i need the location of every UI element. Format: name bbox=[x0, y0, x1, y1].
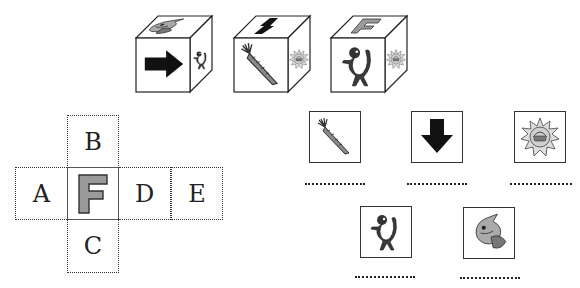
net-label-d: D bbox=[135, 180, 154, 208]
net-cell-c: C bbox=[67, 220, 119, 273]
fish-icon bbox=[464, 208, 514, 258]
net-cell-d: D bbox=[119, 167, 171, 220]
cube-1 bbox=[134, 14, 214, 110]
net-cell-e: E bbox=[171, 167, 223, 220]
answer-blank-fish[interactable] bbox=[460, 277, 520, 279]
cube-2 bbox=[232, 14, 312, 110]
cube-3 bbox=[329, 14, 409, 110]
answer-blank-sun[interactable] bbox=[510, 183, 572, 185]
net-cell-a: A bbox=[15, 167, 67, 220]
option-carrot bbox=[309, 111, 361, 163]
net-label-a: A bbox=[33, 180, 50, 208]
sun-icon bbox=[515, 112, 565, 162]
option-fish bbox=[463, 207, 515, 259]
net-cell-f bbox=[67, 167, 119, 220]
answer-blank-creature[interactable] bbox=[355, 276, 415, 278]
carrot-icon bbox=[310, 112, 360, 162]
net-label-e: E bbox=[188, 180, 206, 208]
answer-blank-carrot[interactable] bbox=[305, 183, 365, 185]
option-creature bbox=[360, 206, 412, 258]
option-down-arrow bbox=[411, 111, 463, 163]
down-arrow-icon bbox=[412, 112, 462, 162]
net-cell-b: B bbox=[67, 115, 119, 168]
net-label-c: C bbox=[84, 232, 102, 260]
option-sun bbox=[514, 111, 566, 163]
answer-blank-down-arrow[interactable] bbox=[407, 183, 467, 185]
creature-icon bbox=[361, 207, 411, 257]
letter-f-icon bbox=[75, 173, 111, 215]
net-label-b: B bbox=[84, 128, 102, 156]
